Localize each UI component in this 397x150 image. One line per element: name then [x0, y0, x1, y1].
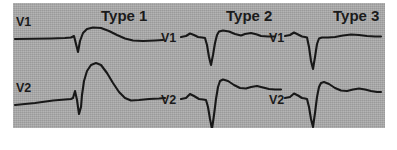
lead-label-type3-v2: V2 [269, 93, 284, 107]
column-title-type-3: Type 3 [333, 7, 379, 24]
lead-label-type2-v1: V1 [161, 31, 176, 45]
trace-type1-v2 [15, 63, 165, 114]
trace-type2-v2 [181, 80, 281, 129]
trace-type3-v2 [285, 82, 381, 127]
brugada-ecg-figure: Type 1 Type 2 Type 3 V1 V2 V1 V2 V1 V2 [0, 0, 397, 150]
trace-type1-v1 [15, 28, 163, 53]
lead-label-type1-v2: V2 [16, 81, 31, 95]
trace-type2-v1 [181, 31, 275, 66]
lead-label-type3-v1: V1 [269, 31, 284, 45]
lead-label-type1-v1: V1 [16, 15, 31, 29]
column-title-type-1: Type 1 [101, 7, 147, 24]
lead-label-type2-v2: V2 [161, 93, 176, 107]
ecg-paper-panel: Type 1 Type 2 Type 3 V1 V2 V1 V2 V1 V2 [13, 3, 385, 128]
ecg-traces [13, 3, 385, 128]
column-title-type-2: Type 2 [226, 7, 272, 24]
trace-type3-v1 [285, 33, 381, 70]
